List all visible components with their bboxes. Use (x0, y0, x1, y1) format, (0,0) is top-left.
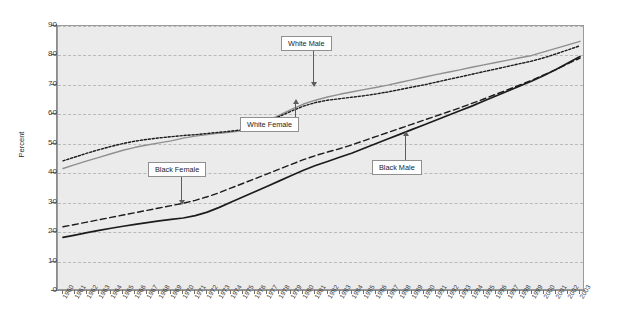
series-layer (58, 26, 585, 291)
annotation-leader-black-male (405, 136, 406, 160)
y-tick-label-10: 10 (11, 256, 57, 265)
y-tick-label-90: 90 (11, 20, 57, 29)
series-line-black-male (63, 57, 580, 238)
y-axis-title: Percent (17, 115, 26, 175)
annotation-label-white-male: White Male (281, 36, 332, 51)
series-line-white-female (63, 46, 580, 161)
y-tick-label-30: 30 (11, 197, 57, 206)
annotation-leader-black-female (181, 177, 182, 200)
plot-area (57, 25, 584, 290)
chart-root: 0102030405060708090 19601961196219631964… (0, 0, 641, 335)
y-tick-label-70: 70 (11, 79, 57, 88)
annotation-leader-white-male (313, 51, 314, 82)
annotation-arrow-white-male (311, 82, 317, 87)
y-tick-label-20: 20 (11, 226, 57, 235)
y-tick-label-80: 80 (11, 49, 57, 58)
annotation-label-white-female: White Female (240, 117, 299, 132)
annotation-arrow-black-female (179, 200, 185, 205)
annotation-label-black-female: Black Female (148, 162, 206, 177)
y-axis-ticks: 0102030405060708090 (0, 0, 57, 335)
series-line-white-male (63, 41, 580, 168)
x-axis-ticks: 1960196119621963196419651966196719681969… (0, 290, 641, 335)
annotation-arrow-white-female (293, 99, 299, 104)
series-line-black-female (63, 58, 580, 227)
annotation-label-black-male: Black Male (372, 160, 422, 175)
annotation-leader-white-female (295, 104, 296, 117)
annotation-arrow-black-male (403, 131, 409, 136)
